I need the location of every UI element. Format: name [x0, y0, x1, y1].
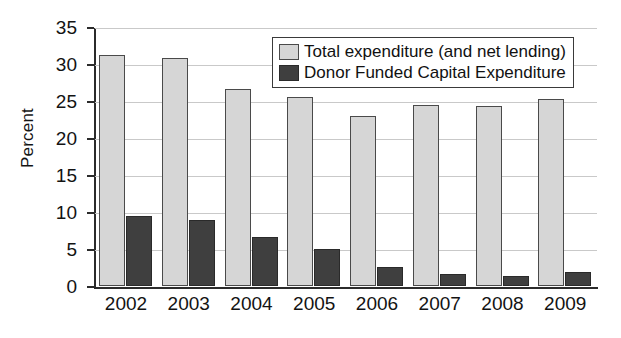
x-tick-label: 2009 [530, 293, 600, 315]
x-tick-label: 2007 [405, 293, 475, 315]
y-tick-label: 25 [56, 92, 77, 111]
bar-donor-funded [314, 249, 340, 286]
bar-total-expenditure [476, 106, 502, 286]
bar-donor-funded [503, 276, 529, 286]
bar-donor-funded [565, 272, 591, 286]
y-tick-mark: 35 [87, 27, 94, 29]
y-axis-title: Percent [18, 68, 38, 208]
y-tick-label: 0 [66, 277, 77, 296]
y-tick-mark: 30 [87, 64, 94, 66]
legend-swatch-total-icon [279, 44, 299, 60]
y-tick-label: 10 [56, 203, 77, 222]
x-tick-label: 2002 [91, 293, 161, 315]
y-tick-label: 30 [56, 55, 77, 74]
x-tick-label: 2008 [468, 293, 538, 315]
legend-label-total: Total expenditure (and net lending) [304, 43, 566, 60]
bar-total-expenditure [538, 99, 564, 286]
bar-total-expenditure [350, 116, 376, 286]
y-tick-mark: 20 [87, 138, 94, 140]
y-tick-mark: 25 [87, 101, 94, 103]
bar-donor-funded [377, 267, 403, 286]
bar-chart: Percent 05101520253035 20022003200420052… [0, 0, 621, 338]
chart-legend: Total expenditure (and net lending) Dono… [272, 37, 574, 88]
bar-total-expenditure [162, 58, 188, 286]
x-tick-label: 2005 [279, 293, 349, 315]
y-tick-label: 5 [66, 240, 77, 259]
legend-item-total: Total expenditure (and net lending) [279, 41, 566, 62]
bar-group: 2003 [162, 27, 225, 286]
legend-swatch-donor-icon [279, 65, 299, 81]
x-tick-label: 2003 [154, 293, 224, 315]
y-tick-mark: 0 [87, 286, 94, 288]
y-tick-mark: 15 [87, 175, 94, 177]
bar-total-expenditure [287, 97, 313, 286]
bar-group: 2002 [99, 27, 162, 286]
y-tick-label: 20 [56, 129, 77, 148]
x-axis-line [94, 287, 598, 289]
bar-donor-funded [440, 274, 466, 286]
bar-total-expenditure [99, 55, 125, 286]
bar-donor-funded [252, 237, 278, 286]
y-tick-label: 15 [56, 166, 77, 185]
legend-item-donor: Donor Funded Capital Expenditure [279, 62, 566, 83]
x-tick-label: 2004 [217, 293, 287, 315]
bar-donor-funded [126, 216, 152, 286]
x-tick-label: 2006 [342, 293, 412, 315]
y-tick-mark: 10 [87, 212, 94, 214]
y-tick-label: 35 [56, 18, 77, 37]
bar-total-expenditure [225, 89, 251, 286]
legend-label-donor: Donor Funded Capital Expenditure [304, 64, 566, 81]
y-tick-mark: 5 [87, 249, 94, 251]
bar-donor-funded [189, 220, 215, 286]
bar-total-expenditure [413, 105, 439, 286]
